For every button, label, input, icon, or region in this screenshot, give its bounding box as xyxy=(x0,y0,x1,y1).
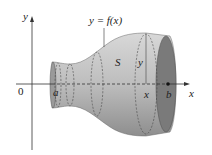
solid-label: S xyxy=(115,56,121,68)
b-point xyxy=(166,82,170,86)
curve-label: y = f(x) xyxy=(88,14,122,27)
x-axis-label: x xyxy=(188,87,194,99)
y-axis xyxy=(30,16,34,150)
a-label: a xyxy=(53,86,59,98)
origin-label: 0 xyxy=(18,85,24,97)
solid-of-revolution-diagram: y = f(x) S y 0 a x b x y xyxy=(0,0,212,155)
x-point-label: x xyxy=(143,88,149,100)
b-label: b xyxy=(166,88,172,100)
left-end-cap xyxy=(50,62,56,108)
y-axis-label: y xyxy=(22,10,28,22)
radius-label: y xyxy=(137,56,143,68)
